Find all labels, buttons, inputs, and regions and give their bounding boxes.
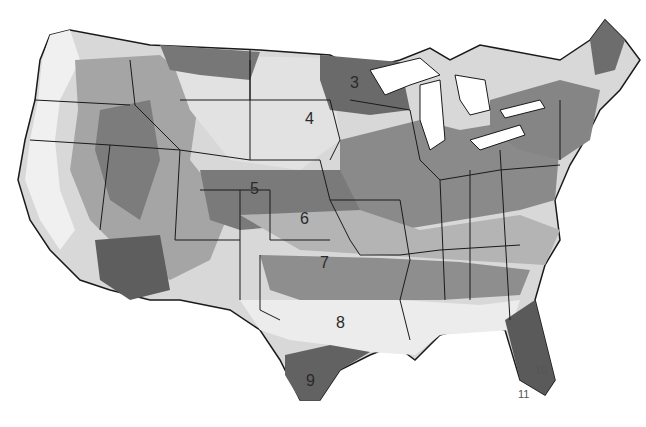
zone-label-6: 6 xyxy=(300,210,309,228)
zone-label-8: 8 xyxy=(336,314,345,332)
zone-label-7: 7 xyxy=(320,254,329,272)
zone-label-4: 4 xyxy=(305,110,314,128)
zone-label-11: 11 xyxy=(518,388,529,400)
zone-label-3: 3 xyxy=(350,74,359,92)
zone-label-10: 10 xyxy=(535,364,547,376)
zone-label-9: 9 xyxy=(306,372,315,390)
zone-label-5: 5 xyxy=(250,180,259,198)
us-zone-map xyxy=(0,0,646,427)
